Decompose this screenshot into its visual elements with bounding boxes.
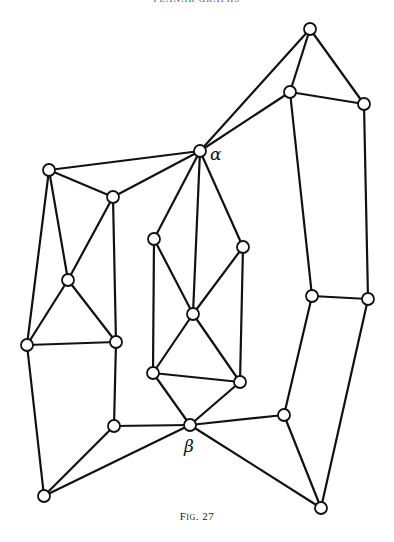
edge-l6-bl [44, 426, 114, 496]
edge-l2-l3 [68, 197, 113, 280]
node-m4 [147, 367, 159, 379]
node-m5 [234, 376, 246, 388]
edge-l2-l4 [113, 197, 116, 342]
edge-top-ur2 [310, 29, 364, 104]
edge-r2-br [321, 299, 368, 508]
edge-l3-l4 [68, 280, 116, 342]
edge-alpha-m2 [200, 151, 243, 247]
figure-caption: Fig. 27 [0, 510, 394, 522]
edge-m3-m5 [193, 314, 240, 382]
edge-beta-br [190, 425, 321, 508]
graph-diagram: α β [0, 0, 394, 542]
node-ur2 [358, 98, 370, 110]
edge-l4-l6 [114, 342, 116, 426]
edge-r1-r3 [284, 296, 312, 415]
alpha-label: α [210, 144, 222, 164]
node-ur1 [284, 86, 296, 98]
edge-m2-m5 [240, 247, 243, 382]
edge-r3-beta [190, 415, 284, 425]
node-top [304, 23, 316, 35]
edge-ur1-r1 [290, 92, 312, 296]
edge-m2-m3 [193, 247, 243, 314]
graph-edges [27, 29, 368, 508]
edge-l1-l5 [27, 170, 49, 345]
beta-label: β [183, 436, 194, 456]
edge-alpha-m3 [193, 151, 200, 314]
node-m3 [187, 308, 199, 320]
edge-m3-m4 [153, 314, 193, 373]
edge-l1-l2 [49, 170, 113, 197]
node-r2 [362, 293, 374, 305]
edge-bl-beta [44, 425, 190, 496]
edge-ur2-r2 [364, 104, 368, 299]
node-l4 [110, 336, 122, 348]
node-m2 [237, 241, 249, 253]
edge-m4-beta [153, 373, 190, 425]
edge-m1-m3 [154, 239, 193, 314]
edge-l5-bl [27, 345, 44, 496]
edge-l5-l4 [27, 342, 116, 345]
node-r3 [278, 409, 290, 421]
node-beta [184, 419, 196, 431]
edge-r1-r2 [312, 296, 368, 299]
node-l1 [43, 164, 55, 176]
node-l3 [62, 274, 74, 286]
edge-ur1-ur2 [290, 92, 364, 104]
node-l6 [108, 420, 120, 432]
edge-m1-m4 [153, 239, 154, 373]
node-l5 [21, 339, 33, 351]
edge-alpha-l1 [49, 151, 200, 170]
node-bl [38, 490, 50, 502]
node-r1 [306, 290, 318, 302]
edge-m5-beta [190, 382, 240, 425]
edge-r3-br [284, 415, 321, 508]
node-alpha [194, 145, 206, 157]
edge-m4-m5 [153, 373, 240, 382]
node-m1 [148, 233, 160, 245]
edge-l1-l3 [49, 170, 68, 280]
node-l2 [107, 191, 119, 203]
edge-l6-beta [114, 425, 190, 426]
